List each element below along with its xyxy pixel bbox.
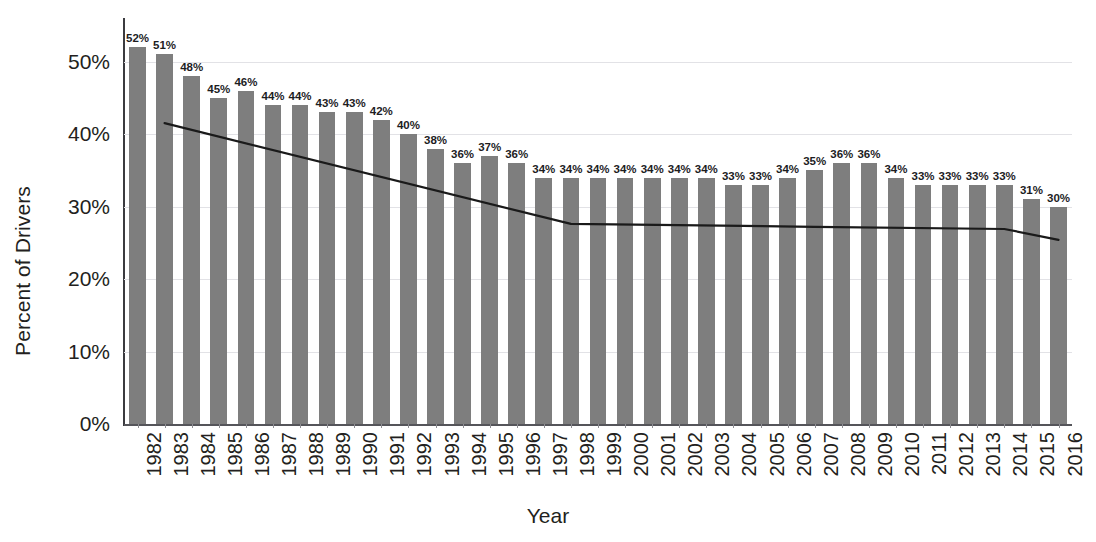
x-tick-label: 2011 (931, 432, 947, 502)
x-tick-label: 1992 (416, 432, 432, 502)
x-tick-mark (950, 424, 951, 428)
x-tick-mark (165, 424, 166, 428)
x-tick-mark (138, 424, 139, 428)
x-tick-mark (842, 424, 843, 428)
x-tick-label: 2014 (1012, 432, 1028, 502)
bar[interactable] (319, 112, 336, 424)
bar[interactable] (454, 163, 471, 424)
bar[interactable] (915, 185, 932, 424)
x-tick-mark (436, 424, 437, 428)
x-tick-mark (706, 424, 707, 428)
x-tick-label: 1991 (389, 432, 405, 502)
x-tick-label: 2003 (714, 432, 730, 502)
bar[interactable] (590, 178, 607, 425)
bar[interactable] (156, 54, 173, 424)
bar[interactable] (806, 170, 823, 424)
bar[interactable] (481, 156, 498, 424)
bar[interactable] (373, 120, 390, 425)
x-tick-mark (1059, 424, 1060, 428)
bar[interactable] (942, 185, 959, 424)
x-tick-label: 1999 (606, 432, 622, 502)
x-tick-mark (463, 424, 464, 428)
x-tick-mark (788, 424, 789, 428)
y-tick-label: 0% (44, 413, 110, 434)
bar-value-label: 46% (230, 77, 262, 89)
plot-area (124, 18, 1072, 424)
bar[interactable] (563, 178, 580, 425)
x-tick-label: 2005 (769, 432, 785, 502)
x-tick-label: 1987 (281, 432, 297, 502)
x-tick-label: 2010 (904, 432, 920, 502)
bar-value-label: 48% (176, 62, 208, 74)
bar[interactable] (996, 185, 1013, 424)
y-tick-label: 30% (44, 196, 110, 217)
x-tick-label: 1997 (552, 432, 568, 502)
bar[interactable] (1050, 207, 1067, 425)
bar[interactable] (183, 76, 200, 424)
bar[interactable] (698, 178, 715, 425)
x-tick-label: 1990 (362, 432, 378, 502)
x-tick-label: 2000 (633, 432, 649, 502)
bar-value-label: 30% (1043, 193, 1075, 205)
bar[interactable] (1023, 199, 1040, 424)
x-tick-mark (327, 424, 328, 428)
x-tick-mark (381, 424, 382, 428)
x-tick-label: 2001 (660, 432, 676, 502)
x-tick-mark (571, 424, 572, 428)
x-tick-label: 1983 (173, 432, 189, 502)
bar[interactable] (346, 112, 363, 424)
x-tick-mark (408, 424, 409, 428)
bar-value-label: 36% (501, 149, 533, 161)
x-tick-label: 1993 (444, 432, 460, 502)
x-tick-mark (761, 424, 762, 428)
x-tick-label: 2007 (823, 432, 839, 502)
y-tick-label: 40% (44, 123, 110, 144)
x-tick-mark (598, 424, 599, 428)
bar-value-label: 33% (988, 171, 1020, 183)
x-tick-label: 2004 (741, 432, 757, 502)
bar[interactable] (725, 185, 742, 424)
bar[interactable] (779, 178, 796, 425)
bar[interactable] (861, 163, 878, 424)
bar[interactable] (969, 185, 986, 424)
gridline (124, 62, 1072, 63)
x-tick-label: 1984 (200, 432, 216, 502)
x-tick-label: 1985 (227, 432, 243, 502)
x-tick-label: 2013 (985, 432, 1001, 502)
bar[interactable] (210, 98, 227, 424)
bar-value-label: 42% (365, 106, 397, 118)
x-tick-mark (490, 424, 491, 428)
x-tick-mark (923, 424, 924, 428)
bar[interactable] (752, 185, 769, 424)
bar[interactable] (833, 163, 850, 424)
x-tick-mark (300, 424, 301, 428)
x-tick-mark (679, 424, 680, 428)
x-tick-label: 1995 (498, 432, 514, 502)
x-tick-label: 1998 (579, 432, 595, 502)
x-tick-mark (544, 424, 545, 428)
x-tick-label: 1986 (254, 432, 270, 502)
bar[interactable] (644, 178, 661, 425)
bar[interactable] (129, 47, 146, 424)
bar[interactable] (427, 149, 444, 425)
x-tick-label: 1989 (335, 432, 351, 502)
x-tick-mark (1031, 424, 1032, 428)
bar[interactable] (888, 178, 905, 425)
bar[interactable] (535, 178, 552, 425)
x-tick-mark (273, 424, 274, 428)
y-tick-label: 10% (44, 341, 110, 362)
bar[interactable] (292, 105, 309, 424)
bar[interactable] (671, 178, 688, 425)
bar[interactable] (508, 163, 525, 424)
bar[interactable] (400, 134, 417, 424)
bar[interactable] (265, 105, 282, 424)
bar[interactable] (617, 178, 634, 425)
x-tick-mark (733, 424, 734, 428)
x-tick-mark (977, 424, 978, 428)
chart-container: Percent of Drivers 0%10%20%30%40%50% 52%… (0, 0, 1096, 542)
x-tick-mark (354, 424, 355, 428)
x-tick-mark (625, 424, 626, 428)
x-tick-label: 2006 (796, 432, 812, 502)
bar-value-label: 38% (420, 135, 452, 147)
bar[interactable] (238, 91, 255, 425)
